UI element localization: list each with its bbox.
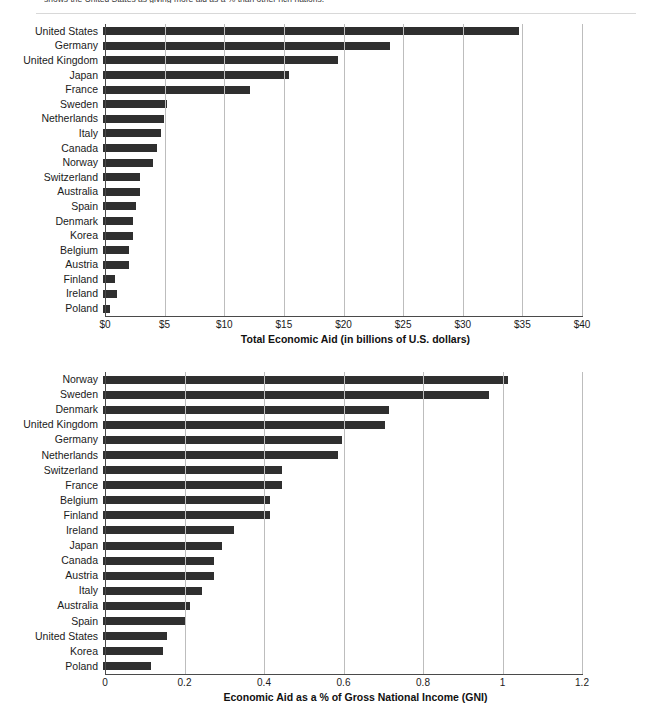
x-tick-label: 1 xyxy=(500,677,506,688)
category-label: Korea xyxy=(0,230,103,241)
x-tick-label: 1.2 xyxy=(575,677,589,688)
bar-track xyxy=(103,301,651,316)
x-axis-title-chart1: Total Economic Aid (in billions of U.S. … xyxy=(0,333,651,345)
bar xyxy=(103,129,161,137)
bar xyxy=(103,466,282,474)
bar xyxy=(103,632,167,640)
chart-total-economic-aid: United StatesGermanyUnited KingdomJapanF… xyxy=(0,24,651,354)
bar-row: United States xyxy=(0,24,651,39)
horizontal-rule xyxy=(36,13,636,14)
bar xyxy=(103,144,157,152)
x-axis-ticks-chart1: $0$5$10$15$20$25$30$35$40 xyxy=(105,316,583,332)
bar xyxy=(103,602,190,610)
category-label: United Kingdom xyxy=(0,55,103,66)
bar-track xyxy=(103,629,651,644)
top-caption-text: shows the United States as giving more a… xyxy=(44,0,604,3)
bar-row: Ireland xyxy=(0,523,651,538)
bar xyxy=(103,71,289,79)
bar-row: Belgium xyxy=(0,493,651,508)
bar xyxy=(103,376,508,384)
category-label: Belgium xyxy=(0,495,103,506)
bar xyxy=(103,647,163,655)
bar-track xyxy=(103,463,651,478)
bar-row: Australia xyxy=(0,185,651,200)
bar-row: Austria xyxy=(0,568,651,583)
bar-track xyxy=(103,417,651,432)
bar-track xyxy=(103,659,651,674)
bar-row: Australia xyxy=(0,598,651,613)
x-tick-label: $30 xyxy=(454,319,471,330)
x-tick-label: $40 xyxy=(574,319,591,330)
bar-row: Switzerland xyxy=(0,463,651,478)
category-label: France xyxy=(0,84,103,95)
bar-row: Netherlands xyxy=(0,112,651,127)
category-label: United States xyxy=(0,26,103,37)
bar-track xyxy=(103,228,651,243)
bar xyxy=(103,261,129,269)
category-label: Switzerland xyxy=(0,172,103,183)
category-label: Canada xyxy=(0,555,103,566)
x-axis-ticks-chart2: 00.20.40.60.811.2 xyxy=(105,674,583,690)
x-tick-label: $25 xyxy=(395,319,412,330)
bar-row: Norway xyxy=(0,155,651,170)
bar-row: United States xyxy=(0,629,651,644)
category-label: Sweden xyxy=(0,99,103,110)
category-label: Spain xyxy=(0,201,103,212)
bar-track xyxy=(103,82,651,97)
category-label: Belgium xyxy=(0,245,103,256)
category-label: Finland xyxy=(0,274,103,285)
bar-rows-chart2: NorwaySwedenDenmarkUnited KingdomGermany… xyxy=(0,372,651,674)
bar-row: Korea xyxy=(0,228,651,243)
category-label: Australia xyxy=(0,600,103,611)
x-tick-label: $35 xyxy=(514,319,531,330)
bar-track xyxy=(103,272,651,287)
bar-row: United Kingdom xyxy=(0,53,651,68)
category-label: Germany xyxy=(0,40,103,51)
bar xyxy=(103,511,270,519)
bar-track xyxy=(103,478,651,493)
bar-track xyxy=(103,141,651,156)
category-label: Denmark xyxy=(0,216,103,227)
category-label: Ireland xyxy=(0,288,103,299)
bar-track xyxy=(103,214,651,229)
category-label: Italy xyxy=(0,585,103,596)
category-label: Norway xyxy=(0,157,103,168)
bar xyxy=(103,436,342,444)
bar-track xyxy=(103,402,651,417)
bar xyxy=(103,526,234,534)
bar-track xyxy=(103,508,651,523)
bar xyxy=(103,27,519,35)
category-label: Austria xyxy=(0,259,103,270)
category-label: Japan xyxy=(0,540,103,551)
bar-track xyxy=(103,199,651,214)
bar xyxy=(103,100,167,108)
x-tick-label: $20 xyxy=(335,319,352,330)
bar-track xyxy=(103,39,651,54)
bar xyxy=(103,305,110,313)
bar xyxy=(103,159,153,167)
bar-row: Netherlands xyxy=(0,447,651,462)
bar-track xyxy=(103,68,651,83)
x-tick-label: 0.8 xyxy=(416,677,430,688)
bar-track xyxy=(103,493,651,508)
bar-track xyxy=(103,614,651,629)
category-label: Korea xyxy=(0,646,103,657)
bar-track xyxy=(103,523,651,538)
category-label: Spain xyxy=(0,616,103,627)
bar xyxy=(103,42,390,50)
bar-track xyxy=(103,583,651,598)
bar-track xyxy=(103,258,651,273)
bar-track xyxy=(103,112,651,127)
bar xyxy=(103,86,250,94)
x-tick-label: $5 xyxy=(159,319,170,330)
bar-row: France xyxy=(0,82,651,97)
x-tick-label: 0.4 xyxy=(257,677,271,688)
bar xyxy=(103,188,140,196)
bar-track xyxy=(103,243,651,258)
bar-row: Finland xyxy=(0,272,651,287)
x-tick-label: $10 xyxy=(216,319,233,330)
category-label: France xyxy=(0,480,103,491)
bar-row: Italy xyxy=(0,126,651,141)
bar-track xyxy=(103,53,651,68)
bar-row: Denmark xyxy=(0,402,651,417)
